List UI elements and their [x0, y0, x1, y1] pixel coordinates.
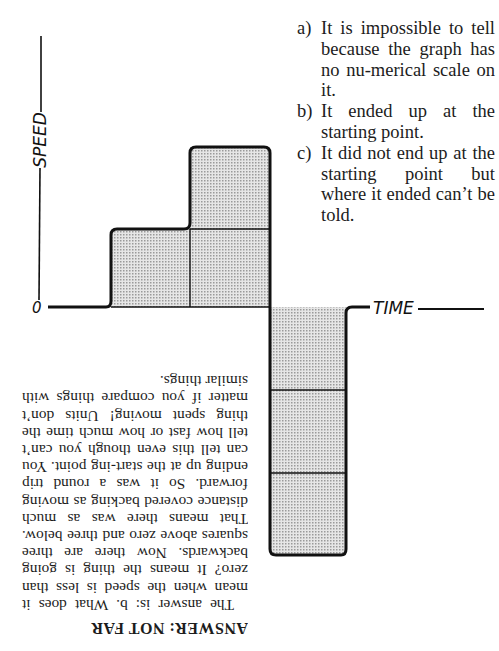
answer-title: ANSWER: NOT FAR [5, 620, 248, 637]
choice-letter: c) [297, 143, 321, 226]
origin-label: 0 [32, 299, 42, 317]
x-axis-label: TIME [373, 298, 414, 318]
upside-down-answer: ANSWER: NOT FAR The answer is: b. What d… [5, 352, 270, 637]
answer-choices: a) It is impossible to tell because the … [297, 18, 495, 226]
choice-letter: b) [297, 101, 321, 143]
choice-text: It ended up at the starting point. [321, 101, 495, 143]
bar-interval-2 [190, 147, 270, 307]
choice-text: It is impossible to tell because the gra… [321, 18, 495, 101]
bar-interval-3 [271, 307, 346, 554]
choice-text: It did not end up at the starting point … [321, 143, 495, 226]
y-axis-label: SPEED [30, 112, 50, 168]
answer-body: The answer is: b. What does it mean when… [22, 373, 248, 614]
choice-letter: a) [297, 18, 321, 101]
choice-a: a) It is impossible to tell because the … [297, 18, 495, 101]
bar-interval-1 [112, 229, 190, 307]
choice-b: b) It ended up at the starting point. [297, 101, 495, 143]
choice-c: c) It did not end up at the starting poi… [297, 143, 495, 226]
